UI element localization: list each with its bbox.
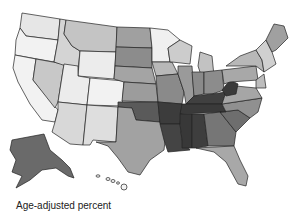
us-choropleth-map	[0, 0, 301, 200]
region-south-dakota	[115, 47, 152, 68]
region-north-dakota	[116, 27, 152, 48]
region-arizona	[52, 102, 87, 145]
region-iowa	[152, 62, 178, 76]
region-indiana	[192, 72, 204, 96]
region-alaska	[10, 134, 74, 188]
region-wyoming	[78, 51, 116, 79]
legend-label: Age-adjusted percent	[16, 200, 111, 211]
region-mississippi	[180, 114, 192, 148]
region-ohio	[204, 70, 224, 94]
region-kansas	[122, 82, 158, 102]
region-pennsylvania	[222, 66, 258, 84]
region-hawaii	[96, 175, 127, 190]
region-florida	[196, 146, 248, 186]
region-new-mexico	[83, 105, 118, 145]
region-arkansas	[158, 102, 182, 124]
